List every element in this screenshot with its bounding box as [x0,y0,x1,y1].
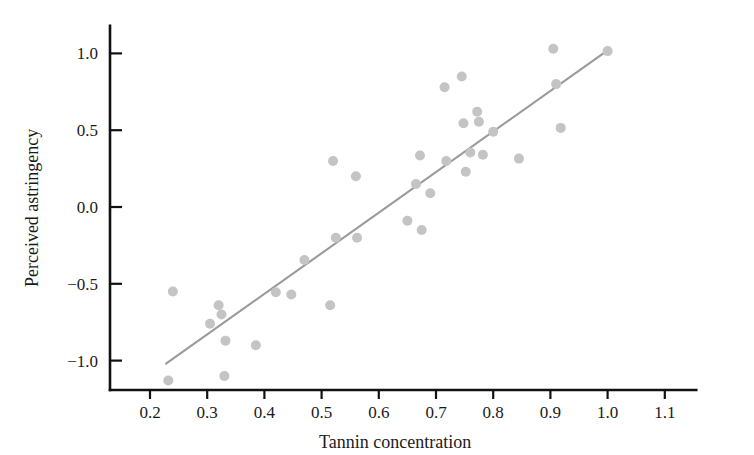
y-tick-label: 0.0 [77,198,98,217]
data-point [461,167,471,177]
y-axis-title: Perceived astringency [22,129,42,287]
x-tick-label: 0.4 [254,403,276,422]
data-point [603,46,613,56]
x-tick-label: 0.6 [368,403,389,422]
data-point [458,118,468,128]
y-tick-label: −1.0 [67,352,98,371]
data-point [352,233,362,243]
data-point [425,188,435,198]
data-point [548,44,558,54]
data-point [440,82,450,92]
data-point [271,287,281,297]
data-point [221,336,231,346]
data-point [251,340,261,350]
data-point [488,127,498,137]
data-point [219,371,229,381]
x-tick-label: 0.2 [139,403,160,422]
regression-line [166,50,608,363]
x-tick-label: 1.1 [654,403,675,422]
data-point [402,216,412,226]
axes-spines [110,26,696,390]
data-point [217,310,227,320]
data-point [457,71,467,81]
x-tick-label: 1.0 [597,403,618,422]
data-point [415,151,425,161]
x-axis-ticks: 0.20.30.40.50.60.70.80.91.01.1 [139,390,675,422]
data-point [328,156,338,166]
data-point [551,79,561,89]
x-axis-title: Tannin concentration [319,432,471,452]
data-point [205,319,215,329]
data-point [214,300,224,310]
data-point [465,147,475,157]
y-axis-ticks: −1.0−0.50.00.51.0 [67,44,122,370]
data-point [286,290,296,300]
plot-canvas: 0.20.30.40.50.60.70.80.91.01.1−1.0−0.50.… [0,0,754,455]
y-tick-label: −0.5 [67,275,98,294]
data-point [351,171,361,181]
data-point [441,156,451,166]
data-point [411,179,421,189]
data-point [474,117,484,127]
data-point [168,286,178,296]
data-point [556,123,566,133]
y-tick-label: 1.0 [77,44,98,63]
data-point [417,225,427,235]
scatter-plot-figure: 0.20.30.40.50.60.70.80.91.01.1−1.0−0.50.… [0,0,754,455]
data-point [163,376,173,386]
data-point [299,255,309,265]
data-point [478,150,488,160]
data-point [514,154,524,164]
data-point [331,233,341,243]
data-point [325,300,335,310]
y-tick-label: 0.5 [77,121,98,140]
x-tick-label: 0.5 [311,403,332,422]
x-tick-label: 0.8 [483,403,504,422]
x-tick-label: 0.9 [540,403,561,422]
x-tick-label: 0.7 [425,403,447,422]
x-tick-label: 0.3 [197,403,218,422]
data-point [472,107,482,117]
